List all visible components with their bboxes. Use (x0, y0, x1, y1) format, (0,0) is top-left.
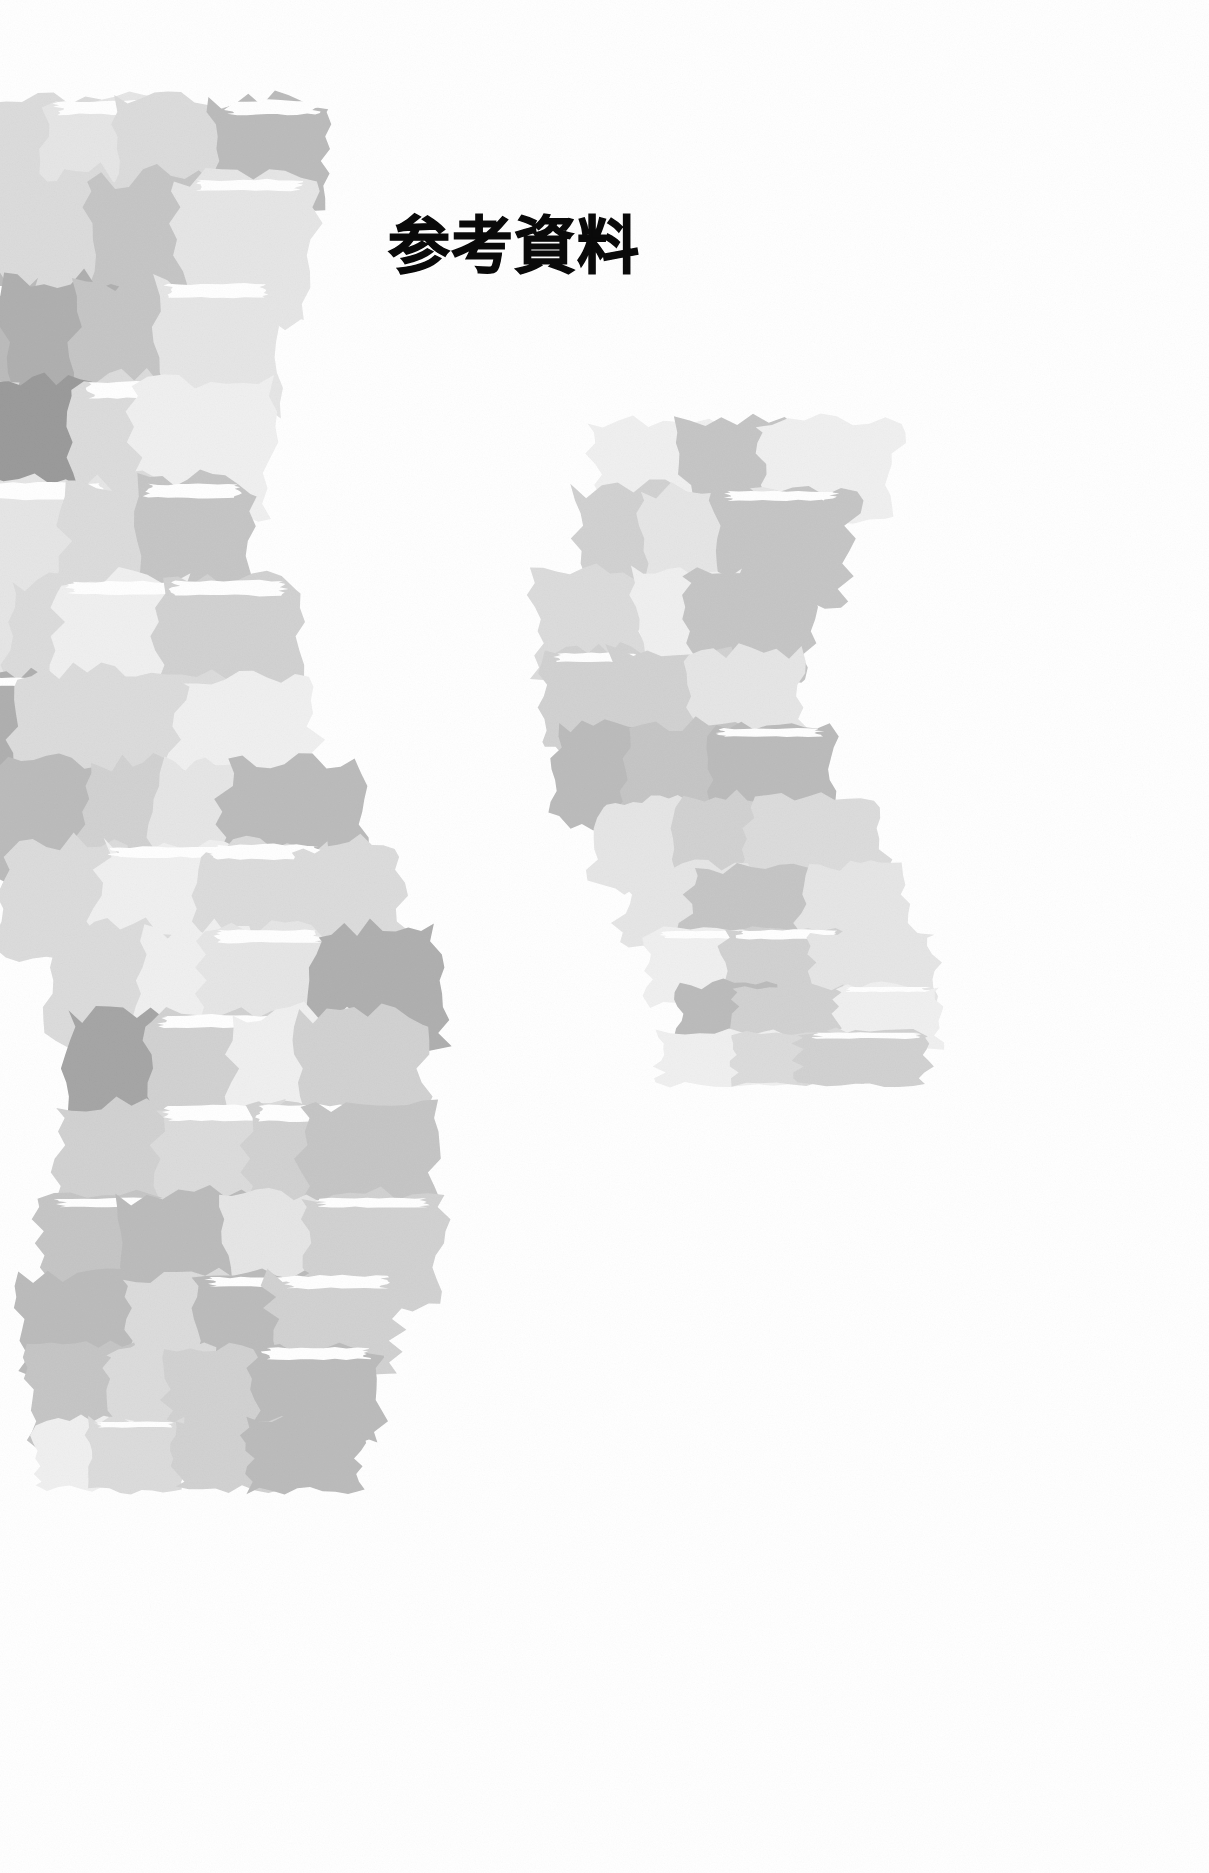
collage-piece (791, 1029, 934, 1087)
collage-highlight (143, 484, 242, 499)
collage-piece (115, 1185, 258, 1310)
collage-piece (682, 563, 818, 687)
collage-piece (570, 479, 716, 609)
collage-piece (150, 1099, 289, 1234)
collage-piece (146, 757, 280, 884)
collage-piece (0, 272, 40, 428)
collage-highlight (255, 1104, 355, 1122)
collage-piece (673, 863, 843, 957)
collage-highlight (108, 846, 241, 858)
collage-piece (709, 483, 864, 610)
collage-piece (56, 470, 212, 622)
collage-piece (170, 1416, 301, 1494)
collage-piece (0, 665, 65, 798)
collage-piece (653, 1028, 794, 1087)
collage-highlight (261, 1347, 371, 1360)
collage-highlight (659, 931, 767, 939)
collage-piece (43, 918, 183, 1055)
collage-piece (169, 168, 323, 330)
collage-piece (293, 1004, 433, 1148)
collage-highlight (204, 1277, 307, 1288)
collage-piece (301, 1187, 451, 1312)
collage-piece (597, 644, 741, 759)
collage-piece (150, 571, 310, 717)
collage-piece (160, 1343, 286, 1448)
collage-highlight (86, 381, 180, 399)
collage-piece (793, 860, 917, 955)
collage-piece (586, 795, 706, 897)
collage-highlight (169, 580, 289, 597)
collage-piece (801, 926, 942, 1010)
collage-piece (261, 1269, 407, 1381)
collage-piece (0, 476, 27, 618)
collage-piece (294, 1100, 441, 1236)
collage-piece (85, 1416, 185, 1495)
collage-piece (185, 836, 345, 969)
collage-highlight (54, 1197, 176, 1207)
collage-piece (126, 374, 279, 526)
collage-piece (61, 1006, 199, 1145)
collage-piece (23, 1340, 139, 1449)
collage-piece (14, 1269, 158, 1380)
collage-piece (225, 1001, 372, 1148)
collage-piece (756, 414, 906, 524)
collage-piece (0, 663, 159, 801)
collage-piece (69, 753, 205, 884)
page-title-block: 参考資料 (388, 216, 640, 278)
collage-piece (152, 271, 289, 428)
collage-highlight (65, 581, 187, 595)
collage-piece (0, 570, 132, 717)
collage-piece (278, 834, 413, 966)
collage-piece (207, 91, 332, 218)
collage-piece (0, 832, 146, 965)
collage-highlight (724, 491, 840, 501)
collage-piece (671, 790, 795, 894)
collage-piece (92, 669, 258, 799)
collage-highlight (845, 987, 930, 992)
collage-piece (642, 927, 780, 1010)
collage-highlight (163, 283, 268, 298)
collage-highlight (553, 653, 639, 663)
collage-piece (674, 414, 821, 523)
collage-piece (67, 273, 207, 428)
collage-highlight (812, 1032, 922, 1039)
collage-piece (684, 643, 810, 757)
collage-piece (50, 567, 208, 713)
collage-piece (66, 368, 186, 519)
collage-piece (30, 1414, 143, 1491)
collage-highlight (0, 285, 26, 296)
collage-piece (585, 415, 724, 522)
collage-piece (192, 1269, 320, 1379)
collage-piece (219, 1188, 331, 1311)
collage-piece (195, 920, 340, 1055)
collage-highlight (94, 1422, 175, 1428)
collage-piece (728, 979, 850, 1052)
collage-piece (832, 982, 945, 1055)
page-title: 参考資料 (388, 216, 640, 278)
collage-highlight (716, 728, 825, 737)
collage-piece (0, 269, 128, 428)
collage-piece (0, 571, 64, 716)
collage-piece (636, 482, 779, 608)
collage-piece (82, 838, 260, 969)
collage-highlight (736, 929, 841, 939)
collage-piece (246, 1343, 388, 1450)
collage-piece (0, 369, 25, 527)
collage-piece (39, 92, 176, 219)
collage-piece (123, 1268, 249, 1379)
collage-piece (0, 175, 75, 331)
collage-piece (730, 1028, 869, 1087)
collage-piece (134, 470, 257, 625)
collage-highlight (282, 1275, 390, 1289)
collage-highlight (210, 844, 325, 860)
collage-piece (111, 91, 238, 216)
collage-piece (240, 1101, 370, 1235)
collage-piece (0, 92, 106, 218)
collage-piece (142, 1007, 294, 1148)
collage-highlight (213, 930, 324, 944)
collage-piece (611, 860, 771, 958)
document-page: 参考資料 (0, 0, 1209, 1873)
collage-piece (717, 926, 861, 1008)
collage-piece (548, 719, 677, 830)
collage-highlight (196, 179, 304, 191)
